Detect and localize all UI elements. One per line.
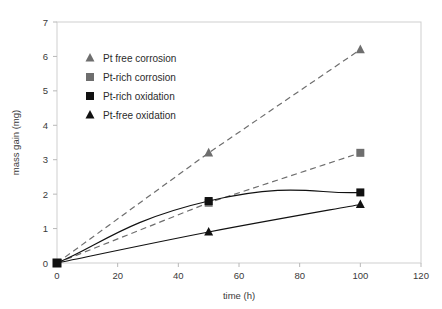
y-tick-label: 7 bbox=[43, 17, 48, 28]
legend-marker-3 bbox=[86, 92, 94, 100]
y-tick-label: 4 bbox=[43, 120, 48, 131]
origin-marker bbox=[53, 259, 62, 268]
y-tick-label: 6 bbox=[43, 51, 48, 62]
x-axis-title: time (h) bbox=[223, 290, 255, 301]
x-tick-label: 0 bbox=[54, 270, 59, 281]
x-tick-label: 100 bbox=[352, 270, 368, 281]
y-tick-label: 2 bbox=[43, 189, 48, 200]
legend-marker-1 bbox=[86, 53, 95, 62]
data-point-marker bbox=[356, 45, 365, 54]
legend-label-1: Pt free corrosion bbox=[103, 53, 176, 64]
legend-label-2: Pt-rich corrosion bbox=[103, 72, 176, 83]
data-point-marker bbox=[356, 188, 364, 196]
chart-canvas: 020406080100120time (h)01234567mass gain… bbox=[0, 0, 442, 309]
data-point-marker bbox=[204, 148, 213, 157]
data-point-marker bbox=[356, 149, 364, 157]
y-axis-title: mass gain (mg) bbox=[10, 110, 21, 175]
series-2 bbox=[57, 153, 360, 263]
data-point-marker bbox=[205, 197, 213, 205]
y-tick-label: 1 bbox=[43, 223, 48, 234]
legend-marker-4 bbox=[86, 110, 95, 119]
chart-figure: 020406080100120time (h)01234567mass gain… bbox=[0, 0, 442, 309]
legend-label-3: Pt-rich oxidation bbox=[103, 91, 175, 102]
x-tick-label: 80 bbox=[294, 270, 305, 281]
legend-marker-2 bbox=[86, 73, 94, 81]
x-tick-label: 20 bbox=[112, 270, 123, 281]
x-tick-label: 120 bbox=[413, 270, 429, 281]
x-tick-label: 40 bbox=[173, 270, 184, 281]
series-line bbox=[57, 153, 360, 263]
x-tick-label: 60 bbox=[234, 270, 245, 281]
legend-label-4: Pt-free oxidation bbox=[103, 110, 176, 121]
y-tick-label: 5 bbox=[43, 85, 48, 96]
data-point-marker bbox=[356, 199, 365, 208]
y-tick-label: 0 bbox=[43, 258, 48, 269]
y-tick-label: 3 bbox=[43, 154, 48, 165]
